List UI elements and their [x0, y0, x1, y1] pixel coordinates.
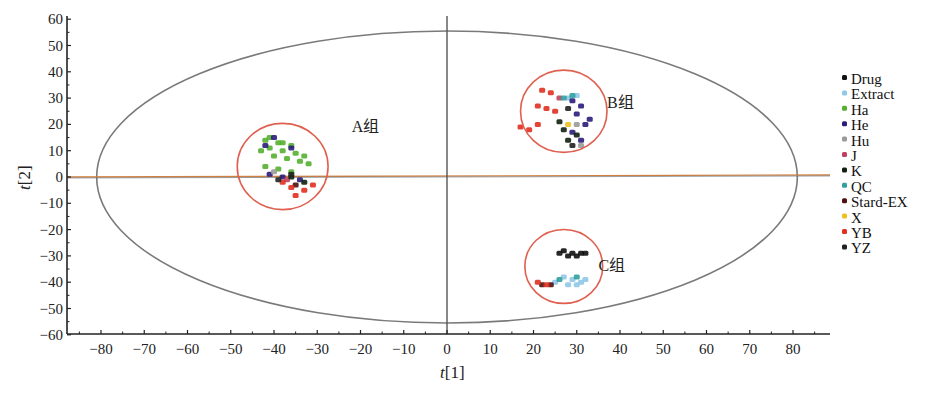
legend-marker-yb	[842, 229, 847, 234]
data-point-yb	[288, 185, 294, 190]
x-tick-label: −30	[306, 341, 329, 357]
legend-label: X	[851, 210, 862, 226]
y-tick-label: −30	[40, 248, 63, 264]
data-point-he	[582, 122, 588, 127]
legend-marker-extract	[842, 90, 847, 95]
x-tick-label: −40	[262, 341, 285, 357]
x-tick-label: −80	[89, 341, 112, 357]
data-point-hu	[578, 143, 584, 148]
legend-marker-stard-ex	[842, 198, 847, 203]
data-point-yb	[535, 103, 541, 108]
legend-marker-ha	[842, 106, 847, 111]
data-point-k	[574, 132, 580, 137]
data-point-yb	[548, 90, 554, 95]
data-point-qc	[561, 96, 567, 101]
legend-label: Ha	[851, 102, 869, 118]
data-point-k	[561, 127, 567, 132]
x-tick-label: 20	[526, 341, 541, 357]
x-tick-label: 0	[443, 341, 451, 357]
y-tick-label: −60	[40, 327, 63, 343]
y-axis-title: t[2]	[15, 165, 34, 190]
data-point-ha	[280, 148, 286, 153]
legend: DrugExtractHaHeHuJKQCStard-EXXYBYZ	[842, 71, 908, 256]
data-point-yb	[543, 106, 549, 111]
y-tick-label: 40	[48, 64, 63, 80]
data-point-ha	[271, 153, 277, 158]
data-point-qc	[556, 277, 562, 282]
legend-label: Stard-EX	[851, 194, 908, 210]
data-point-drug	[556, 251, 562, 256]
group-circle	[525, 229, 603, 303]
data-point-extract	[582, 277, 588, 282]
data-point-hu	[574, 122, 580, 127]
y-tick-label: 50	[48, 38, 63, 54]
x-tick-label: 60	[699, 341, 714, 357]
data-point-yb	[293, 193, 299, 198]
data-point-qc	[569, 93, 575, 98]
legend-label: YB	[851, 225, 872, 241]
data-point-drug	[582, 251, 588, 256]
group-label: C组	[598, 257, 625, 274]
data-point-he	[262, 143, 268, 148]
group-label: B组	[607, 94, 634, 111]
data-point-extract	[574, 282, 580, 287]
data-point-he	[578, 138, 584, 143]
legend-marker-k	[842, 167, 847, 172]
data-point-drug	[574, 253, 580, 258]
x-tick-label: 10	[483, 341, 498, 357]
x-tick-label: 40	[613, 341, 628, 357]
data-point-k	[301, 180, 307, 185]
legend-label: J	[851, 148, 857, 164]
legend-label: He	[851, 117, 869, 133]
data-point-yb	[301, 188, 307, 193]
y-tick-label: 10	[48, 143, 63, 159]
legend-marker-drug	[842, 75, 847, 80]
x-tick-label: −50	[219, 341, 242, 357]
data-point-ha	[297, 159, 303, 164]
y-tick-label: 60	[48, 11, 63, 27]
group-circle	[237, 123, 328, 209]
x-axis-title: t[1]	[440, 363, 465, 382]
legend-marker-he	[842, 121, 847, 126]
data-point-yb	[539, 88, 545, 93]
data-point-qc	[574, 274, 580, 279]
data-point-yz	[275, 177, 281, 182]
legend-label: QC	[851, 179, 872, 195]
y-tick-label: 0	[56, 169, 64, 185]
data-point-yb	[310, 182, 316, 187]
data-point-he	[569, 98, 575, 103]
y-tick-label: 30	[48, 90, 63, 106]
y-tick-label: 20	[48, 116, 63, 132]
y-tick-label: −10	[40, 195, 63, 211]
x-tick-label: −20	[349, 341, 372, 357]
legend-marker-yz	[842, 244, 847, 249]
y-tick-label: −50	[40, 301, 63, 317]
legend-label: K	[851, 163, 862, 179]
data-point-yb	[526, 127, 532, 132]
data-point-yz	[288, 172, 294, 177]
legend-marker-hu	[842, 137, 847, 142]
data-point-ha	[293, 151, 299, 156]
plot-area: A组B组C组−80−70−60−50−40−30−20−100102030405…	[40, 11, 830, 357]
data-point-he	[288, 146, 294, 151]
legend-label: Extract	[851, 86, 895, 102]
data-point-yb	[535, 280, 541, 285]
x-tick-label: 50	[656, 341, 671, 357]
legend-marker-x	[842, 214, 847, 219]
data-point-he	[587, 117, 593, 122]
group-label: A组	[352, 118, 380, 135]
legend-marker-j	[842, 152, 847, 157]
y-tick-label: −20	[40, 222, 63, 238]
data-point-ha	[280, 140, 286, 145]
data-point-k	[565, 138, 571, 143]
data-point-ha	[301, 153, 307, 158]
data-point-yb	[535, 122, 541, 127]
data-point-extract	[565, 282, 571, 287]
x-tick-label: −60	[176, 341, 199, 357]
scores-plot: A组B组C组−80−70−60−50−40−30−20−100102030405…	[0, 0, 948, 393]
data-point-he	[271, 135, 277, 140]
x-tick-label: −10	[392, 341, 415, 357]
x-tick-label: −70	[133, 341, 156, 357]
data-point-ha	[306, 161, 312, 166]
data-point-he	[578, 103, 584, 108]
